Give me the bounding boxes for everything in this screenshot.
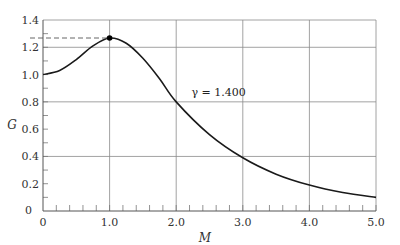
y-tick-label: 0.2 xyxy=(22,178,40,191)
data-line xyxy=(43,38,376,197)
y-axis-label: G xyxy=(7,118,17,132)
tick-labels: 01.02.03.04.05.000.20.40.60.81.01.21.4 xyxy=(22,14,385,229)
gamma-annotation: γ = 1.400 xyxy=(192,86,246,99)
chart: 01.02.03.04.05.000.20.40.60.81.01.21.4 γ… xyxy=(0,0,400,245)
axes xyxy=(43,20,376,211)
y-tick-label: 1.0 xyxy=(22,69,40,82)
x-tick-label: 3.0 xyxy=(234,216,252,229)
y-tick-label: 1.2 xyxy=(22,41,40,54)
y-tick-label: 1.4 xyxy=(22,14,40,27)
minor-ticks xyxy=(43,34,376,211)
x-tick-label: 2.0 xyxy=(167,216,185,229)
y-tick-label: 0.4 xyxy=(22,150,40,163)
x-tick-label: 4.0 xyxy=(301,216,319,229)
grid-lines xyxy=(43,20,376,211)
y-tick-label: 0.8 xyxy=(22,96,40,109)
x-tick-label: 1.0 xyxy=(101,216,119,229)
y-tick-label: 0 xyxy=(25,204,32,217)
x-axis-label: M xyxy=(198,231,212,245)
y-tick-label: 0.6 xyxy=(22,123,40,136)
x-tick-label: 5.0 xyxy=(367,216,385,229)
x-tick-label: 0 xyxy=(40,216,47,229)
max-point-marker xyxy=(107,35,113,41)
